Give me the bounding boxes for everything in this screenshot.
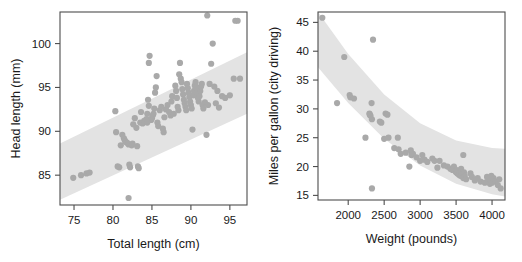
data-point: [133, 125, 139, 131]
y-tick-label: 35: [296, 74, 309, 86]
panel-head-length-vs-total-length: 7580859095859095100Total length (cm)Head…: [0, 0, 261, 262]
data-point: [161, 114, 167, 120]
data-point: [192, 79, 198, 85]
prediction-band: [318, 12, 505, 197]
data-point: [369, 116, 375, 122]
x-tick-label: 3000: [407, 209, 433, 221]
x-tick-label: 80: [107, 214, 120, 226]
data-point: [368, 100, 374, 106]
data-point: [112, 108, 118, 114]
data-point: [70, 175, 76, 181]
data-point: [177, 60, 183, 66]
data-point: [210, 40, 216, 46]
y-tick-label: 45: [296, 16, 309, 28]
data-point: [189, 105, 195, 111]
x-tick-label: 95: [223, 214, 236, 226]
x-tick-label: 2500: [371, 209, 397, 221]
data-point: [153, 84, 159, 90]
data-point: [144, 111, 150, 117]
data-point: [395, 135, 401, 141]
data-point: [146, 60, 152, 66]
data-point: [406, 163, 412, 169]
data-point: [370, 37, 376, 43]
data-point: [205, 102, 211, 108]
y-tick-label: 30: [296, 103, 309, 115]
x-tick-label: 90: [185, 214, 198, 226]
data-point: [127, 164, 133, 170]
data-point: [496, 176, 502, 182]
y-tick-label: 15: [296, 189, 309, 201]
y-tick-label: 20: [296, 161, 309, 173]
data-point: [232, 18, 238, 24]
x-axis-title: Total length (cm): [107, 237, 199, 251]
y-tick-label: 40: [296, 45, 309, 57]
data-point: [116, 164, 122, 170]
data-point: [134, 143, 140, 149]
data-point: [369, 185, 375, 191]
data-point: [498, 185, 504, 191]
data-point: [203, 132, 209, 138]
y-tick-label: 90: [38, 125, 51, 137]
data-point: [463, 176, 469, 182]
x-tick-label: 4000: [479, 209, 505, 221]
y-tick-label: 100: [32, 38, 51, 50]
data-point: [136, 165, 142, 171]
y-tick-label: 25: [296, 132, 309, 144]
data-point: [436, 158, 442, 164]
data-point: [174, 95, 180, 101]
data-point: [319, 15, 325, 21]
data-point: [154, 73, 160, 79]
data-point: [180, 91, 186, 97]
data-point: [144, 119, 150, 125]
x-tick-label: 85: [146, 214, 159, 226]
y-tick-label: 85: [38, 169, 51, 181]
data-point: [351, 95, 357, 101]
data-point: [189, 126, 195, 132]
data-point: [378, 120, 384, 126]
y-axis-title: Head length (mm): [9, 58, 23, 158]
x-tick-label: 3500: [443, 209, 469, 221]
data-point: [179, 86, 185, 92]
data-point: [151, 105, 157, 111]
data-point: [172, 83, 178, 89]
data-point: [87, 169, 93, 175]
data-point: [196, 93, 202, 99]
data-point: [384, 112, 390, 118]
data-point: [216, 105, 222, 111]
data-point: [214, 88, 220, 94]
data-point: [208, 61, 214, 67]
right-plot-svg: 2000250030003500400015202530354045Weight…: [261, 0, 522, 262]
data-point: [175, 107, 181, 113]
data-point: [237, 76, 243, 82]
x-tick-label: 2000: [335, 209, 361, 221]
data-point: [385, 135, 391, 141]
data-point: [183, 107, 189, 113]
data-point: [341, 54, 347, 60]
data-point: [113, 129, 119, 135]
data-point: [168, 98, 174, 104]
x-tick-label: 75: [68, 214, 81, 226]
data-point: [150, 111, 156, 117]
data-point: [152, 90, 158, 96]
data-point: [145, 97, 151, 103]
prediction-band: [60, 52, 247, 199]
y-axis-title: Miles per gallon (city driving): [267, 27, 281, 185]
data-point: [146, 103, 152, 109]
data-point: [424, 159, 430, 165]
left-plot-svg: 7580859095859095100Total length (cm)Head…: [0, 0, 261, 262]
data-point: [199, 81, 205, 87]
x-axis-title: Weight (pounds): [366, 232, 458, 246]
data-point: [147, 53, 153, 59]
data-point: [227, 92, 233, 98]
data-point: [434, 165, 440, 171]
data-point: [173, 88, 179, 94]
data-point: [138, 109, 144, 115]
data-point: [78, 172, 84, 178]
data-point: [362, 135, 368, 141]
data-point: [161, 129, 167, 135]
data-point: [125, 195, 131, 201]
data-point: [178, 79, 184, 85]
panel-mpg-vs-weight: 2000250030003500400015202530354045Weight…: [261, 0, 522, 262]
y-tick-label: 95: [38, 81, 51, 93]
data-point: [132, 115, 138, 121]
